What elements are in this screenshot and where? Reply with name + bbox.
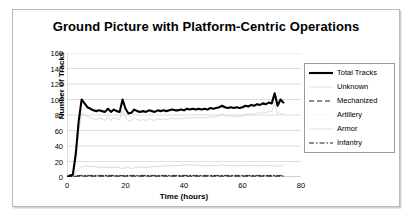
plot-area: Number of Tracks Time (hours) 0204060801… bbox=[67, 53, 301, 177]
legend-item[interactable]: Total Tracks bbox=[308, 66, 391, 80]
legend-item[interactable]: Infantry bbox=[308, 136, 391, 150]
legend-item-label: Unknown bbox=[337, 82, 368, 92]
legend-item-label: Armor bbox=[337, 124, 357, 134]
y-axis-tick: 120 bbox=[50, 80, 63, 89]
legend-item[interactable]: Armor bbox=[308, 122, 391, 136]
x-axis-label: Time (hours) bbox=[67, 192, 301, 201]
y-axis-tick: 0 bbox=[59, 173, 63, 182]
x-axis-tick: 0 bbox=[65, 181, 69, 190]
legend-key-icon bbox=[308, 68, 334, 78]
y-axis-tick: 20 bbox=[55, 157, 63, 166]
x-axis-tick: 20 bbox=[121, 181, 129, 190]
y-axis-tick: 60 bbox=[55, 126, 63, 135]
legend-item[interactable]: Mechanized bbox=[308, 94, 391, 108]
legend-key-icon bbox=[308, 82, 334, 92]
legend-key-icon bbox=[308, 110, 334, 120]
x-axis-tick: 40 bbox=[180, 181, 188, 190]
y-axis-tick: 140 bbox=[50, 64, 63, 73]
chart-title: Ground Picture with Platform-Centric Ope… bbox=[13, 19, 399, 34]
plot-svg bbox=[67, 53, 301, 177]
series-line bbox=[67, 93, 283, 177]
legend-item-label: Artillery bbox=[337, 110, 362, 120]
legend-item[interactable]: Unknown bbox=[308, 80, 391, 94]
y-axis-tick: 100 bbox=[50, 95, 63, 104]
legend-key-icon bbox=[308, 138, 334, 148]
y-axis-tick: 40 bbox=[55, 142, 63, 151]
legend-item[interactable]: Artillery bbox=[308, 108, 391, 122]
legend-item-label: Mechanized bbox=[337, 96, 377, 106]
legend-key-icon bbox=[308, 124, 334, 134]
legend-item-label: Total Tracks bbox=[337, 68, 377, 78]
chart-legend: Total TracksUnknownMechanizedArtilleryAr… bbox=[304, 63, 395, 153]
x-axis-tick: 60 bbox=[238, 181, 246, 190]
y-axis-tick: 80 bbox=[55, 111, 63, 120]
legend-key-icon bbox=[308, 96, 334, 106]
y-axis-tick: 160 bbox=[50, 49, 63, 58]
legend-item-label: Infantry bbox=[337, 138, 362, 148]
x-axis-tick: 80 bbox=[297, 181, 305, 190]
chart-figure: Ground Picture with Platform-Centric Ope… bbox=[12, 9, 400, 207]
